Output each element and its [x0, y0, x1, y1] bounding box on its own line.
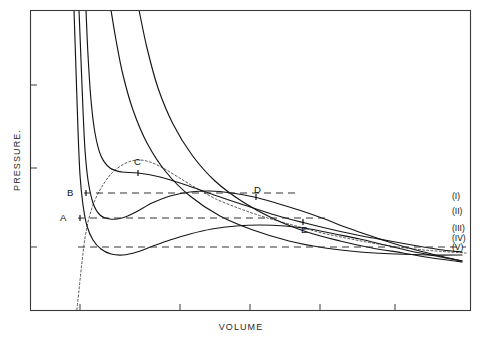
coexistence-curve — [76, 160, 466, 318]
isotherm-curve-IV — [79, 10, 462, 261]
x-axis-label: VOLUME — [219, 322, 264, 332]
point-label-C: C — [134, 156, 141, 167]
legend-label-V: (V) — [452, 242, 464, 252]
y-axis-label: PRESSURE. — [12, 129, 22, 191]
isotherm-curve-V — [74, 10, 462, 261]
pressure-volume-isotherm-figure: A B C D E (I) (II) (III) (IV) (V) VOLUME… — [0, 0, 483, 346]
point-label-E: E — [301, 224, 307, 235]
legend-label-II: (II) — [452, 206, 463, 216]
plot-frame — [31, 11, 471, 311]
legend-label-III: (III) — [452, 223, 465, 233]
y-axis-ticks — [31, 85, 38, 247]
x-axis-ticks — [80, 304, 395, 311]
point-label-A: A — [60, 212, 67, 223]
legend-label-I: (I) — [452, 191, 460, 201]
point-label-B: B — [67, 187, 73, 198]
point-label-D: D — [254, 184, 261, 195]
isotherm-curve-III — [86, 10, 462, 252]
